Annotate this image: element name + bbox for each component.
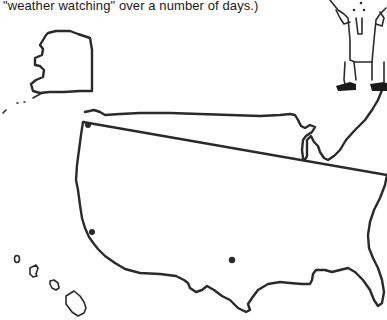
hawaii-outline	[15, 256, 87, 317]
weather-watcher-figure	[330, 0, 387, 91]
contiguous-us-outline	[76, 84, 387, 312]
city-marker-southwest	[229, 257, 235, 263]
alaska-outline	[3, 31, 92, 113]
city-marker-california	[89, 229, 95, 235]
city-marker-northwest	[85, 122, 91, 128]
us-outline-map	[0, 0, 387, 320]
